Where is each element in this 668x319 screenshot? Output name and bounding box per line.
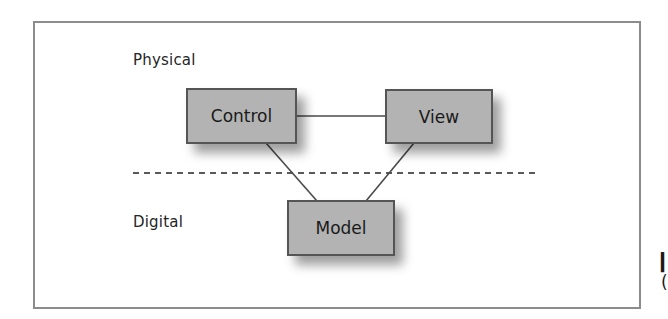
node-control: Control — [186, 88, 297, 144]
node-view: View — [385, 89, 493, 144]
connector-layer — [0, 0, 668, 319]
node-model: Model — [287, 200, 395, 256]
node-control-label: Control — [211, 106, 272, 126]
edge-view-model — [366, 143, 414, 201]
clipped-caption-fragment-1: ▎ — [661, 252, 668, 272]
node-view-label: View — [419, 107, 459, 127]
node-model-label: Model — [315, 218, 366, 238]
clipped-caption-fragment-2: ( — [661, 272, 668, 292]
